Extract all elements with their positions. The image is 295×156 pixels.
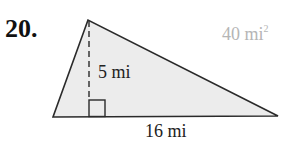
answer-text: 40 mi2 <box>222 24 269 43</box>
base-label: 16 mi <box>145 122 187 140</box>
answer-value: 40 mi <box>222 24 264 44</box>
answer-exponent: 2 <box>264 23 269 34</box>
height-label: 5 mi <box>98 63 131 81</box>
